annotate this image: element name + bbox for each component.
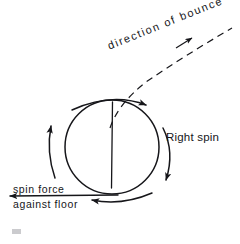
- rotation-arc-left-icon: [49, 126, 55, 178]
- spin-force-label: spin force: [13, 183, 65, 195]
- right-spin-label: Right spin: [166, 131, 219, 143]
- bounce-path-arrowhead-icon: [176, 38, 192, 48]
- smudge-mark-icon: [12, 229, 21, 234]
- rotation-arc-top-icon: [72, 100, 146, 110]
- against-floor-label: against floor: [13, 198, 78, 210]
- spin-bounce-diagram: direction of bounce Right spin spin forc…: [0, 0, 240, 244]
- rotation-arc-bottom-icon: [92, 193, 152, 202]
- spin-force-arrow-icon: [10, 195, 118, 196]
- ball-center-line: [112, 102, 113, 188]
